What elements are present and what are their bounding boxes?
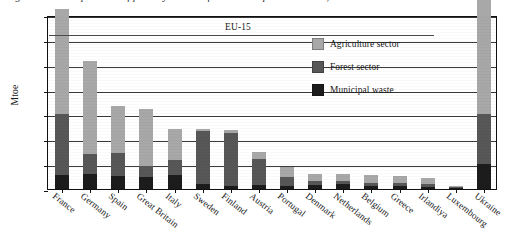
bar-irlandiya[interactable] bbox=[421, 178, 435, 189]
bar-segment-forest-sector bbox=[224, 133, 238, 186]
bar-austria[interactable] bbox=[252, 152, 266, 189]
y-axis-label-wrap: Mtoe bbox=[12, 0, 26, 190]
x-label-irlandiya: Irlandiya bbox=[417, 191, 450, 220]
bar-segment-forest-sector bbox=[55, 114, 69, 175]
x-label-spain: Spain bbox=[107, 191, 130, 212]
bar-spain[interactable] bbox=[111, 106, 125, 189]
bar-segment-municipal-waste bbox=[111, 176, 125, 189]
bar-segment-agriculture-sector bbox=[139, 109, 153, 167]
bar-segment-municipal-waste bbox=[477, 164, 491, 189]
bar-germany[interactable] bbox=[83, 61, 97, 189]
legend-swatch-agriculture bbox=[312, 38, 324, 50]
bar-segment-agriculture-sector bbox=[393, 176, 407, 183]
bar-segment-forest-sector bbox=[196, 131, 210, 184]
bar-series-layer bbox=[48, 17, 496, 189]
bar-segment-agriculture-sector bbox=[308, 174, 322, 181]
x-label-france: France bbox=[51, 191, 78, 215]
legend-item-municipal[interactable]: Municipal waste bbox=[312, 84, 400, 96]
bar-segment-forest-sector bbox=[280, 177, 294, 186]
bar-italy[interactable] bbox=[168, 129, 182, 189]
bar-denmark[interactable] bbox=[308, 174, 322, 189]
bar-segment-agriculture-sector bbox=[280, 167, 294, 177]
x-label-greece: Greece bbox=[388, 191, 415, 215]
bar-segment-agriculture-sector bbox=[83, 61, 97, 154]
bar-segment-agriculture-sector bbox=[477, 0, 491, 114]
bar-segment-municipal-waste bbox=[55, 175, 69, 189]
bar-portugal[interactable] bbox=[280, 167, 294, 189]
bar-segment-agriculture-sector bbox=[364, 175, 378, 183]
bar-segment-municipal-waste bbox=[168, 175, 182, 189]
bar-segment-forest-sector bbox=[83, 154, 97, 174]
eu15-annotation-label: EU-15 bbox=[225, 22, 251, 32]
bar-segment-agriculture-sector bbox=[111, 106, 125, 153]
bar-segment-forest-sector bbox=[111, 153, 125, 176]
eu15-bracket-line bbox=[49, 35, 434, 36]
bar-sweden[interactable] bbox=[196, 129, 210, 189]
legend-label-agriculture: Agriculture sector bbox=[330, 39, 400, 49]
legend-label-forest: Forest sector bbox=[330, 62, 379, 72]
legend-swatch-forest bbox=[312, 61, 324, 73]
x-label-portugal: Portugal bbox=[276, 191, 308, 219]
bar-belgium[interactable] bbox=[364, 175, 378, 189]
y-axis-label: Mtoe bbox=[9, 84, 20, 105]
x-label-sweden: Sweden bbox=[192, 191, 222, 217]
bar-netherlands[interactable] bbox=[336, 174, 350, 189]
figure-caption-strip: Fig. 1. Technical potential of primary s… bbox=[0, 0, 506, 9]
legend-item-forest[interactable]: Forest sector bbox=[312, 61, 400, 73]
legend-label-municipal: Municipal waste bbox=[330, 85, 394, 95]
bar-segment-forest-sector bbox=[252, 159, 266, 185]
bar-segment-agriculture-sector bbox=[168, 129, 182, 160]
x-label-finland: Finland bbox=[220, 191, 249, 217]
chart-legend: Agriculture sectorForest sectorMunicipal… bbox=[312, 38, 400, 96]
legend-swatch-municipal bbox=[312, 84, 324, 96]
legend-item-agriculture[interactable]: Agriculture sector bbox=[312, 38, 400, 50]
bar-segment-forest-sector bbox=[477, 114, 491, 164]
bar-segment-forest-sector bbox=[168, 160, 182, 175]
x-label-austria: Austria bbox=[248, 191, 276, 216]
bar-segment-municipal-waste bbox=[139, 177, 153, 189]
bar-great-britain[interactable] bbox=[139, 109, 153, 190]
x-label-italy: Italy bbox=[163, 191, 183, 210]
bar-segment-agriculture-sector bbox=[55, 9, 69, 115]
bar-finland[interactable] bbox=[224, 130, 238, 189]
bar-segment-municipal-waste bbox=[83, 174, 97, 189]
x-axis-category-labels: FranceGermanySpainGreat BritainItalySwed… bbox=[47, 191, 497, 247]
bar-greece[interactable] bbox=[393, 176, 407, 189]
figure-caption-text: Fig. 1. Technical potential of primary s… bbox=[6, 0, 354, 2]
bar-ukraine[interactable] bbox=[477, 0, 491, 189]
bar-segment-forest-sector bbox=[139, 166, 153, 177]
plot-area: 0.05.010.015.020.025.030.035.0 bbox=[47, 16, 497, 190]
